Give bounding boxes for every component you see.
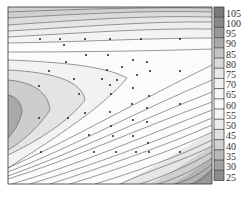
tick-65: 65 (226, 89, 236, 100)
tick-45: 45 (226, 130, 236, 141)
tick-25: 25 (226, 172, 236, 183)
colorbar-tick-labels: 105 100 95 90 85 80 75 70 65 60 55 50 45… (226, 8, 241, 183)
contour-chart: 105 100 95 90 85 80 75 70 65 60 55 50 45… (0, 0, 247, 197)
tick-30: 30 (226, 161, 236, 172)
plot-area (8, 7, 212, 184)
tick-90: 90 (226, 38, 236, 49)
colorbar: 105 100 95 90 85 80 75 70 65 60 55 50 45… (214, 7, 241, 183)
